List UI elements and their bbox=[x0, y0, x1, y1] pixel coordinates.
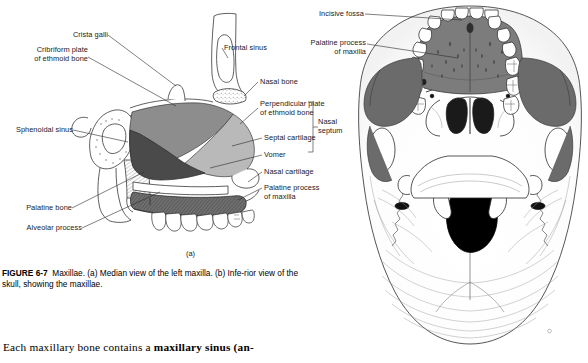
figure-title: Maxillae. bbox=[52, 268, 85, 278]
body-paragraph-prefix: Each maxillary bone contains a bbox=[3, 341, 154, 353]
label-nasal-cartilage: Nasal cartilage bbox=[264, 168, 314, 177]
label-frontal-sinus: Frontal sinus bbox=[224, 44, 267, 53]
panel-a-letter: (a) bbox=[186, 249, 195, 258]
body-paragraph: Each maxillary bone contains a maxillary… bbox=[3, 341, 313, 354]
label-palatine-process-a: Palatine process of maxilla bbox=[264, 184, 319, 201]
body-paragraph-bold: maxillary sinus (an- bbox=[154, 341, 254, 353]
label-palatine-process-b: Palatine process of maxilla bbox=[300, 39, 366, 56]
panel-b-illustration bbox=[352, 0, 588, 363]
label-vomer: Vomer bbox=[264, 151, 286, 160]
figure-caption: FIGURE 6-7 Maxillae. (a) Median view of … bbox=[2, 268, 302, 291]
label-palatine-bone: Palatine bone bbox=[16, 204, 72, 213]
figure-page: Crista galli Cribriform plate of ethmoid… bbox=[0, 0, 588, 363]
label-nasal-bone: Nasal bone bbox=[260, 78, 298, 87]
label-cribriform-plate: Cribriform plate of ethmoid bone bbox=[8, 46, 88, 63]
label-perpendicular-plate: Perpendicular plate of ethmoid bone bbox=[260, 100, 325, 117]
label-nasal-septum: Nasal septum bbox=[318, 118, 343, 135]
label-sphenoidal-sinus: Sphenoidal sinus bbox=[2, 126, 73, 135]
label-septal-cartilage: Septal cartilage bbox=[264, 134, 316, 143]
label-alveolar-process: Alveolar process bbox=[14, 224, 82, 233]
figure-number: FIGURE 6-7 bbox=[2, 268, 48, 278]
label-incisive-fossa: Incisive fossa bbox=[298, 10, 364, 19]
label-crista-galli: Crista galli bbox=[44, 31, 108, 40]
